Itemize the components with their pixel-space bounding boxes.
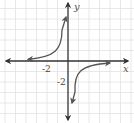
y-axis-label: y	[73, 1, 80, 12]
curve-branch-quadrant-ii	[28, 30, 62, 60]
x-axis-label: x	[123, 63, 129, 74]
hyperbola-graph: y x -2 -2	[0, 0, 134, 123]
curve-branch-quadrant-iv	[75, 63, 110, 92]
y-tick-label: -2	[57, 77, 66, 87]
curve-branch-quadrant-iv	[72, 92, 75, 103]
x-tick-label: -2	[42, 64, 51, 74]
